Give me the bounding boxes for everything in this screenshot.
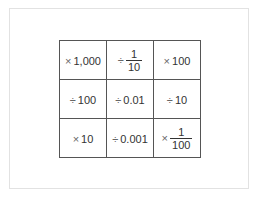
fraction: 1100 [170, 126, 192, 151]
denominator: 10 [126, 60, 142, 73]
grid-row-2: ÷100 ÷0.01 ÷10 [60, 80, 201, 119]
grid-row-3: ×10 ÷0.001 ×1100 [60, 119, 201, 158]
cell-r3-c2: ÷0.001 [107, 119, 154, 158]
cell-r1-c1: ×1,000 [60, 41, 107, 80]
cell-r1-c2: ÷110 [107, 41, 154, 80]
multiply-sign: × [73, 133, 79, 145]
operations-grid: ×1,000 ÷110 ×100 ÷100 ÷0.01 ÷10 ×10 ÷0.0… [59, 40, 201, 158]
cell-value: 1,000 [73, 55, 101, 67]
cell-value: 0.01 [123, 94, 144, 106]
grid-row-1: ×1,000 ÷110 ×100 [60, 41, 201, 80]
cell-value: 10 [175, 94, 187, 106]
cell-r2-c2: ÷0.01 [107, 80, 154, 119]
cell-value: 100 [78, 94, 96, 106]
multiply-sign: × [65, 55, 71, 67]
cell-r3-c1: ×10 [60, 119, 107, 158]
multiply-sign: × [164, 55, 170, 67]
divide-sign: ÷ [115, 94, 121, 106]
cell-r3-c3: ×1100 [154, 119, 201, 158]
divide-sign: ÷ [167, 94, 173, 106]
cell-value: 100 [172, 55, 190, 67]
numerator: 1 [129, 48, 139, 60]
cell-value: 10 [81, 133, 93, 145]
cell-value: 0.001 [120, 133, 148, 145]
denominator: 100 [170, 138, 192, 151]
cell-r2-c1: ÷100 [60, 80, 107, 119]
divide-sign: ÷ [70, 94, 76, 106]
divide-sign: ÷ [112, 133, 118, 145]
numerator: 1 [176, 126, 186, 138]
multiply-sign: × [162, 132, 168, 144]
fraction: 110 [126, 48, 142, 73]
divide-sign: ÷ [118, 54, 124, 66]
cell-r2-c3: ÷10 [154, 80, 201, 119]
cell-r1-c3: ×100 [154, 41, 201, 80]
